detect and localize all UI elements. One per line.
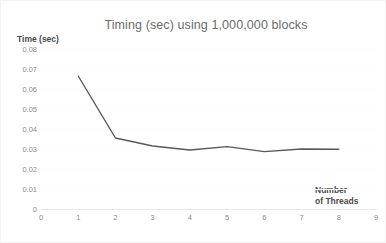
series-line-layer [1,1,386,243]
x-axis-tick-label: 0 [29,213,53,222]
line-chart: Timing (sec) using 1,000,000 blocks Time… [0,0,386,243]
x-axis-tick-label: 6 [252,213,276,222]
x-axis-tick-label: 2 [103,213,127,222]
x-axis-tick-label: 5 [215,213,239,222]
x-axis-tick-label: 7 [290,213,314,222]
x-axis-tick-label: 1 [66,213,90,222]
x-axis-tick-label: 9 [364,213,386,222]
x-axis-tick-label: 4 [178,213,202,222]
x-axis-tick-label: 8 [327,213,351,222]
x-axis-tick-label: 3 [141,213,165,222]
series-line [78,76,339,152]
